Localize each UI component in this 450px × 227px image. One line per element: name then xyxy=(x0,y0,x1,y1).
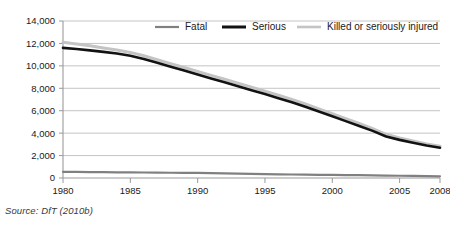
series-line-fatal xyxy=(63,172,440,176)
y-axis-tick-label: 2,000 xyxy=(31,150,55,161)
legend-label-fatal: Fatal xyxy=(185,21,207,32)
y-axis-tick-label: 8,000 xyxy=(31,83,55,94)
y-axis-tick-label: 0 xyxy=(50,172,55,183)
x-axis-tick-label: 1990 xyxy=(187,185,208,196)
source-note: Source: DfT (2010b) xyxy=(5,205,93,216)
x-axis-tick-label: 1980 xyxy=(52,185,73,196)
series-line-killed-or-seriously-injured xyxy=(63,42,440,146)
y-axis-tick-labels: 02,0004,0006,0008,00010,00012,00014,000 xyxy=(26,15,55,183)
legend-label-killed-or-seriously-injured: Killed or seriously injured xyxy=(327,21,438,32)
x-axis-tick-label: 2005 xyxy=(389,185,410,196)
y-axis-tick-label: 12,000 xyxy=(26,38,55,49)
chart-legend: FatalSeriousKilled or seriously injured xyxy=(155,21,438,32)
figure-container: 02,0004,0006,0008,00010,00012,00014,000 … xyxy=(0,0,450,227)
x-axis-tick-label: 1985 xyxy=(120,185,141,196)
x-axis-tick-labels: 1980198519901995200020052008 xyxy=(52,185,450,196)
y-axis-tick-label: 10,000 xyxy=(26,60,55,71)
axis-lines xyxy=(59,21,440,183)
x-axis-tick-label: 2000 xyxy=(322,185,343,196)
data-series-group xyxy=(63,42,440,176)
y-axis-tick-label: 6,000 xyxy=(31,105,55,116)
legend-label-serious: Serious xyxy=(252,21,286,32)
y-axis-tick-label: 4,000 xyxy=(31,128,55,139)
x-axis-tick-label: 1995 xyxy=(254,185,275,196)
line-chart: 02,0004,0006,0008,00010,00012,00014,000 … xyxy=(0,0,450,200)
x-axis-tick-label: 2008 xyxy=(429,185,450,196)
y-axis-tick-label: 14,000 xyxy=(26,15,55,26)
